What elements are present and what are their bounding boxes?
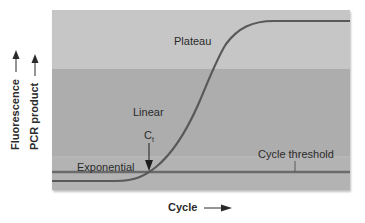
y-axis-label-fluorescence: Fluorescence	[10, 50, 21, 150]
x-axis-label: Cycle	[168, 202, 232, 213]
arrow-up-icon	[31, 54, 39, 76]
exponential-label: Exponential	[77, 162, 135, 173]
ct-label-subscript: t	[152, 136, 154, 143]
fluorescence-label-text: Fluorescence	[9, 79, 21, 150]
pcr-product-label-text: PCR product	[28, 83, 40, 150]
plot-area: Plateau Linear Exponential Ct Cycle thre…	[52, 10, 350, 190]
cycle-threshold-label: Cycle threshold	[258, 149, 334, 160]
arrow-right-icon	[204, 204, 232, 212]
linear-band	[52, 69, 350, 157]
pcr-amplification-figure: Fluorescence PCR product	[0, 0, 365, 223]
y-axis-label-pcr-product: PCR product	[29, 54, 40, 150]
linear-label: Linear	[133, 107, 164, 118]
plateau-label: Plateau	[174, 36, 211, 47]
x-axis-label-text: Cycle	[168, 201, 197, 213]
arrow-up-icon	[12, 50, 20, 72]
ct-label: Ct	[144, 130, 154, 143]
ct-label-main: C	[144, 129, 152, 141]
